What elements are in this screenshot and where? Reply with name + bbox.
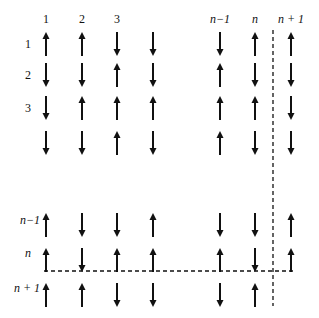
arrow-down-icon (114, 213, 121, 237)
row-label: n + 1 (14, 282, 40, 294)
arrow-up-icon (217, 248, 224, 272)
row-label: 3 (25, 102, 31, 114)
arrow-down-icon (217, 283, 224, 307)
arrow-up-icon (288, 213, 295, 237)
arrow-down-icon (288, 131, 295, 155)
arrow-up-icon (43, 248, 50, 272)
arrow-down-icon (43, 96, 50, 120)
column-label: n (252, 13, 258, 25)
arrow-up-icon (114, 131, 121, 155)
arrow-up-icon (79, 283, 86, 307)
arrow-up-icon (43, 283, 50, 307)
arrow-down-icon (79, 248, 86, 272)
row-label: 2 (25, 69, 31, 81)
column-label: 3 (114, 13, 120, 25)
row-label: n (25, 247, 31, 259)
arrow-up-icon (79, 96, 86, 120)
arrow-down-icon (252, 131, 259, 155)
arrow-up-icon (217, 96, 224, 120)
arrow-down-icon (79, 131, 86, 155)
arrow-down-icon (252, 213, 259, 237)
arrow-down-icon (252, 63, 259, 87)
arrow-down-icon (288, 96, 295, 120)
arrow-up-icon (150, 213, 157, 237)
row-label: 1 (25, 38, 31, 50)
arrow-up-icon (150, 96, 157, 120)
arrow-up-icon (288, 32, 295, 56)
arrow-up-icon (79, 32, 86, 56)
arrow-down-icon (217, 213, 224, 237)
arrow-down-icon (217, 32, 224, 56)
arrow-up-icon (252, 283, 259, 307)
arrow-up-icon (43, 32, 50, 56)
arrow-down-icon (114, 32, 121, 56)
arrow-down-icon (150, 63, 157, 87)
arrow-down-icon (43, 131, 50, 155)
arrow-down-icon (79, 213, 86, 237)
arrow-up-icon (114, 63, 121, 87)
arrow-down-icon (150, 283, 157, 307)
column-label: 2 (79, 13, 85, 25)
arrow-up-icon (114, 248, 121, 272)
row-label: n−1 (20, 214, 40, 226)
arrow-up-icon (252, 32, 259, 56)
arrow-down-icon (43, 63, 50, 87)
arrow-up-icon (217, 63, 224, 87)
arrow-up-icon (288, 248, 295, 272)
arrow-down-icon (252, 248, 259, 272)
arrow-up-icon (43, 213, 50, 237)
arrow-up-icon (114, 96, 121, 120)
arrow-down-icon (288, 63, 295, 87)
arrow-up-icon (217, 131, 224, 155)
spin-matrix-diagram: 1 2 3 n−1 n n + 1 1 2 3 n−1 n n + 1 (0, 0, 319, 318)
arrow-down-icon (150, 131, 157, 155)
column-label: 1 (43, 13, 49, 25)
arrow-down-icon (114, 283, 121, 307)
column-label: n−1 (210, 13, 230, 25)
arrow-up-icon (150, 248, 157, 272)
arrow-grid (0, 0, 319, 318)
arrow-up-icon (252, 96, 259, 120)
arrow-down-icon (79, 63, 86, 87)
column-label: n + 1 (278, 13, 304, 25)
arrow-down-icon (150, 32, 157, 56)
